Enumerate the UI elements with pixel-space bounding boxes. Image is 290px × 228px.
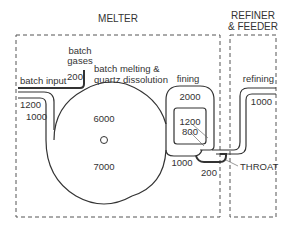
fining-inner-value-2: 800 [182,126,198,137]
glass-furnace-flow-diagram: MELTER REFINER & FEEDER batch gases 200 … [0,0,290,228]
circulation-center-marker [101,137,108,144]
fining-outer-value: 2000 [179,91,200,102]
refiner-boundary [230,35,276,217]
refining-label: refining [243,73,274,84]
throat-value: 200 [201,167,217,178]
refining-value: 1000 [251,96,272,107]
throat-label: THROAT [240,161,279,172]
fining-label: fining [177,73,200,84]
fining-bottom-stream [166,150,202,156]
batch-melting-label-line1: batch melting & [94,63,160,74]
left-outer-value: 1200 [20,99,41,110]
fining-bottom-value: 1000 [171,157,192,168]
refiner-title-line2: & FEEDER [228,21,278,32]
batch-gases-value: 200 [67,71,83,82]
melter-title: MELTER [98,13,138,24]
batch-melting-label-line2: quartz dissolution [94,74,168,85]
circle-top-value: 6000 [93,113,114,124]
batch-input-label: batch input [20,75,67,86]
throat-stream [196,154,226,162]
melter-circulation-loop [54,82,166,196]
batch-gases-label-line2: gases [67,55,93,66]
circle-bottom-value: 7000 [93,161,114,172]
left-inner-value: 1000 [26,111,47,122]
leader-line-throat [226,160,238,166]
refiner-title-line1: REFINER [231,10,275,21]
